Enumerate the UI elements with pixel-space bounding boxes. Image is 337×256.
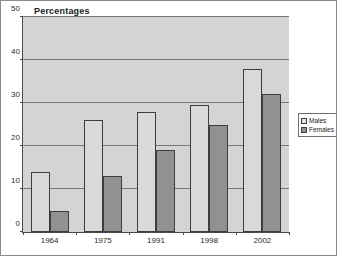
- x-axis-label-1964: 1964: [41, 236, 59, 245]
- legend-item-females[interactable]: Females: [301, 125, 334, 134]
- bar-males-1998: [190, 105, 209, 232]
- bar-males-1975: [84, 120, 103, 232]
- x-axis-label-1975: 1975: [94, 236, 112, 245]
- bar-females-1964: [50, 211, 69, 233]
- legend-swatch-icon: [301, 127, 307, 133]
- y-axis-tick: [20, 145, 23, 146]
- y-axis-tick: [20, 16, 23, 17]
- chart-container: Percentages 01020304050 1964197519911998…: [0, 0, 337, 256]
- legend-item-label: Females: [309, 125, 334, 134]
- y-axis-label: 50: [11, 4, 20, 13]
- x-axis-tick: [289, 232, 290, 235]
- x-axis-tick: [129, 232, 130, 235]
- bar-males-2002: [243, 69, 262, 232]
- y-axis-label: 0: [16, 219, 20, 228]
- bar-females-1991: [156, 150, 175, 232]
- y-axis-label: 20: [11, 133, 20, 142]
- y-axis-tick: [20, 102, 23, 103]
- chart-legend[interactable]: MalesFemales: [298, 113, 337, 137]
- x-axis-tick: [236, 232, 237, 235]
- gridline: [23, 16, 289, 17]
- y-axis-tick: [20, 59, 23, 60]
- y-axis-label: 10: [11, 176, 20, 185]
- y-axis-tick: [20, 188, 23, 189]
- y-axis-label: 40: [11, 47, 20, 56]
- bar-females-1998: [209, 125, 228, 233]
- page-title: Percentages: [34, 6, 90, 16]
- gridline: [23, 59, 289, 60]
- legend-item-males[interactable]: Males: [301, 116, 334, 125]
- plot-area: 01020304050 19641975199119982002: [22, 17, 289, 233]
- bar-females-2002: [262, 94, 281, 232]
- x-axis-label-2002: 2002: [253, 236, 271, 245]
- x-axis-label-1998: 1998: [200, 236, 218, 245]
- legend-swatch-icon: [301, 118, 307, 124]
- bar-males-1991: [137, 112, 156, 232]
- y-axis-label: 30: [11, 90, 20, 99]
- x-axis-label-1991: 1991: [147, 236, 165, 245]
- x-axis-tick: [23, 232, 24, 235]
- bar-males-1964: [31, 172, 50, 232]
- legend-item-label: Males: [309, 116, 326, 125]
- x-axis-tick: [76, 232, 77, 235]
- x-axis-tick: [183, 232, 184, 235]
- bar-females-1975: [103, 176, 122, 232]
